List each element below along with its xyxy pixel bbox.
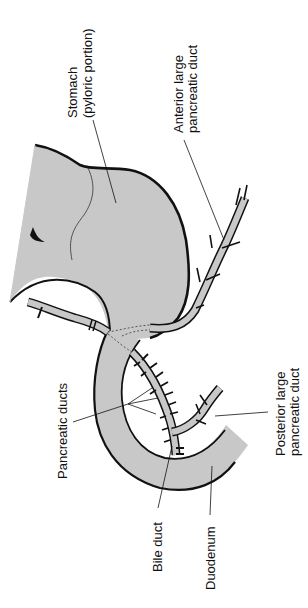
label-posterior-large: Posterior large — [273, 371, 288, 456]
label-stomach-pyloric: (pyloric portion) — [80, 28, 95, 118]
anatomy-diagram: Stomach (pyloric portion) Anterior large… — [0, 0, 308, 608]
label-duodenum: Duodenum — [203, 526, 218, 590]
label-anterior-large: Anterior large — [171, 55, 186, 133]
label-posterior-pancreatic: pancreatic duct — [287, 367, 302, 456]
stomach — [10, 145, 189, 340]
posterior-pancreatic-duct — [172, 388, 220, 432]
main-pancreatic-duct — [132, 352, 184, 455]
label-bile-duct: Bile duct — [150, 522, 165, 572]
label-stomach: Stomach — [65, 67, 80, 118]
label-pancreatic-ducts: Pancreatic ducts — [55, 382, 70, 479]
label-anterior-pancreatic: pancreatic duct — [185, 44, 200, 133]
